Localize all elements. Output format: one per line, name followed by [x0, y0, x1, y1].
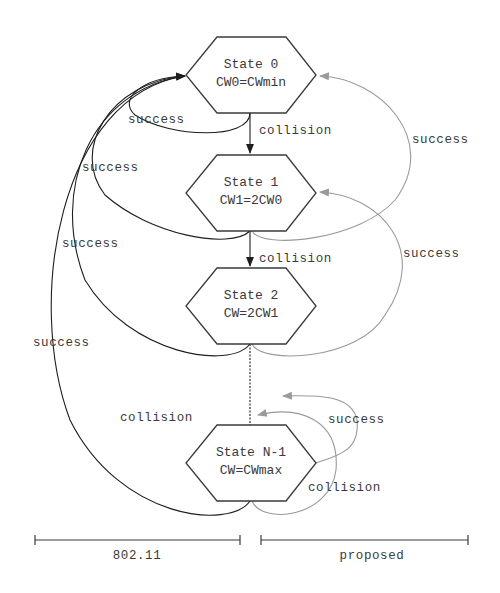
state-1-name: State 1	[224, 175, 279, 190]
label-success-sn-to-s0: success	[33, 336, 90, 350]
state-2: State 2 CW=2CW1	[186, 268, 316, 344]
state-n-1: State N-1 CW=CWmax	[186, 425, 316, 501]
label-proposed-success-sn: success	[328, 413, 385, 427]
label-proposed-success-s1-to-s0: success	[412, 133, 469, 147]
label-success-s2-to-s0: success	[62, 237, 119, 251]
legend-proposed: proposed	[261, 535, 468, 563]
state-0: State 0 CW0=CWmin	[186, 37, 316, 113]
label-success-s0-self: success	[128, 113, 185, 127]
label-proposed-success-s2-to-s1: success	[403, 247, 460, 261]
legend-80211: 802.11	[35, 535, 240, 563]
state-1-cw: CW1=2CW0	[220, 193, 282, 208]
legend-80211-label: 802.11	[113, 549, 162, 563]
state-n-1-cw: CW=CWmax	[220, 463, 283, 478]
label-collision-s2-to-sn: collision	[120, 411, 193, 425]
state-2-cw: CW=2CW1	[224, 306, 279, 321]
backoff-state-diagram: State 0 CW0=CWmin State 1 CW1=2CW0 State…	[0, 0, 500, 593]
state-2-name: State 2	[224, 288, 279, 303]
state-1: State 1 CW1=2CW0	[186, 155, 316, 231]
state-0-cw: CW0=CWmin	[216, 75, 286, 90]
legend-proposed-label: proposed	[340, 549, 405, 563]
state-n-1-name: State N-1	[216, 445, 286, 460]
state-0-name: State 0	[224, 57, 279, 72]
label-collision-s0-to-s1: collision	[259, 124, 332, 138]
label-proposed-collision-sn: collision	[308, 481, 381, 495]
label-success-s1-to-s0: success	[82, 161, 139, 175]
label-collision-s1-to-s2: collision	[259, 252, 332, 266]
